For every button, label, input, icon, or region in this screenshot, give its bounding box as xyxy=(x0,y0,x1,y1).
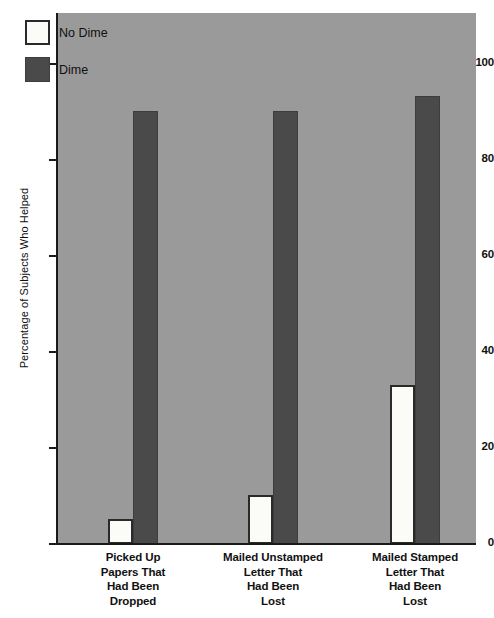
legend-item-no-dime: No Dime xyxy=(25,20,108,45)
x-label-stamped-line-1: Mailed Stamped xyxy=(340,550,490,565)
y-tick-60 xyxy=(49,255,57,257)
x-label-stamped-line-3: Had Been xyxy=(340,579,490,594)
x-label-unstamped-line-1: Mailed Unstamped xyxy=(198,550,348,565)
y-tick-0 xyxy=(49,543,57,545)
x-label-papers-line-2: Papers That xyxy=(58,565,208,580)
bar-chart: 0 20 40 60 80 100 Percentage of Subjects… xyxy=(0,0,494,618)
x-label-unstamped: Mailed Unstamped Letter That Had Been Lo… xyxy=(198,550,348,608)
bar-dime-papers xyxy=(133,111,158,544)
legend-swatch-dime xyxy=(25,57,50,82)
bar-no-dime-unstamped xyxy=(248,495,273,544)
legend-label-no-dime: No Dime xyxy=(59,26,108,40)
legend-item-dime: Dime xyxy=(25,57,88,82)
y-tick-label-0: 0 xyxy=(450,536,494,548)
bar-dime-unstamped xyxy=(273,111,298,544)
legend-swatch-no-dime xyxy=(25,20,50,45)
y-tick-label-100: 100 xyxy=(450,56,494,68)
y-tick-label-80: 80 xyxy=(450,152,494,164)
x-label-papers-line-4: Dropped xyxy=(58,594,208,609)
x-label-unstamped-line-4: Lost xyxy=(198,594,348,609)
y-tick-label-40: 40 xyxy=(450,344,494,356)
x-label-papers: Picked Up Papers That Had Been Dropped xyxy=(58,550,208,608)
y-tick-label-20: 20 xyxy=(450,440,494,452)
y-axis-line xyxy=(56,13,58,544)
x-label-papers-line-3: Had Been xyxy=(58,579,208,594)
y-axis-title: Percentage of Subjects Who Helped xyxy=(18,168,30,388)
y-tick-20 xyxy=(49,447,57,449)
bar-no-dime-papers xyxy=(108,519,133,544)
x-label-papers-line-1: Picked Up xyxy=(58,550,208,565)
x-label-stamped-line-2: Letter That xyxy=(340,565,490,580)
x-axis-line xyxy=(56,543,476,545)
x-label-stamped: Mailed Stamped Letter That Had Been Lost xyxy=(340,550,490,608)
legend-label-dime: Dime xyxy=(59,63,88,77)
bar-no-dime-stamped xyxy=(390,385,415,544)
y-tick-80 xyxy=(49,159,57,161)
y-tick-40 xyxy=(49,351,57,353)
y-tick-label-60: 60 xyxy=(450,248,494,260)
x-label-unstamped-line-2: Letter That xyxy=(198,565,348,580)
x-label-stamped-line-4: Lost xyxy=(340,594,490,609)
x-label-unstamped-line-3: Had Been xyxy=(198,579,348,594)
bar-dime-stamped xyxy=(415,96,440,544)
